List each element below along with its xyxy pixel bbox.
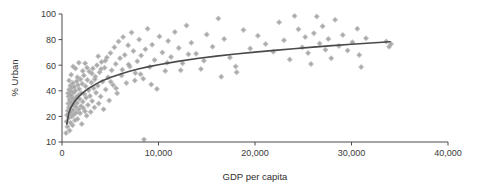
scatter-point — [325, 36, 331, 42]
x-tick-label: 0 — [59, 148, 64, 158]
y-tick-label: 40 — [46, 86, 56, 96]
scatter-point — [168, 54, 174, 60]
scatter-point — [363, 35, 369, 41]
scatter-point — [276, 19, 282, 25]
scatter-point — [94, 62, 100, 68]
y-tick-label: 20 — [46, 112, 56, 122]
scatter-point — [233, 63, 239, 69]
scatter-point — [80, 68, 86, 74]
scatter-point — [91, 104, 97, 110]
scatter-point — [85, 102, 91, 108]
scatter-point — [106, 97, 112, 103]
scatter-point — [88, 109, 94, 115]
scatter-point — [281, 37, 287, 43]
scatter-point — [176, 45, 182, 51]
scatter-point — [95, 53, 101, 59]
scatter-point — [130, 48, 136, 54]
scatter-point — [148, 81, 154, 87]
scatter-point — [89, 98, 95, 104]
scatter-point — [185, 51, 191, 57]
scatter-point — [79, 121, 85, 127]
scatter-point — [328, 55, 334, 61]
scatter-point — [234, 69, 240, 75]
scatter-point — [305, 50, 311, 56]
scatter-point — [119, 67, 125, 73]
x-axis: 010,00020,00030,00040,000 — [59, 142, 461, 158]
y-axis-title: % Urban — [9, 60, 20, 97]
scatter-point — [120, 34, 126, 40]
scatter-point — [159, 49, 165, 55]
scatter-point — [149, 42, 155, 48]
x-tick-label: 30,000 — [338, 148, 366, 158]
scatter-point — [142, 46, 148, 52]
scatter-point — [198, 66, 204, 72]
scatter-point — [123, 80, 129, 86]
scatter-point — [138, 53, 144, 59]
scatter-point — [98, 94, 104, 100]
scatter-point — [240, 27, 246, 33]
scatter-point — [311, 30, 317, 36]
scatter-point — [322, 47, 328, 53]
scatter-point — [210, 44, 216, 50]
scatter-point — [354, 26, 360, 32]
scatter-point — [178, 67, 184, 73]
scatter-point — [107, 50, 113, 56]
scatter-point — [134, 58, 140, 64]
scatter-point — [295, 26, 301, 32]
scatter-point — [247, 46, 253, 52]
y-tick-label: 100 — [41, 9, 56, 19]
scatter-point — [132, 78, 138, 84]
y-tick-label: 10 — [46, 137, 56, 147]
x-tick-label: 10,000 — [145, 148, 173, 158]
scatter-point — [129, 30, 135, 36]
y-axis: 1020406080100 — [41, 9, 62, 147]
scatter-point — [302, 34, 308, 40]
scatter-point — [76, 60, 82, 66]
scatter-point — [145, 26, 151, 32]
scatter-chart: 1020406080100 010,00020,00030,00040,000 … — [0, 0, 478, 190]
scatter-point — [317, 40, 323, 46]
scatter-point — [162, 68, 168, 74]
trendline — [67, 42, 390, 124]
y-tick-label: 60 — [46, 61, 56, 71]
scatter-point — [152, 57, 158, 63]
scatter-point — [116, 39, 122, 45]
scatter-point — [172, 29, 178, 35]
scatter-point — [136, 37, 142, 43]
scatter-point — [308, 61, 314, 67]
scatter-point — [320, 23, 326, 29]
scatter-point — [292, 13, 298, 19]
y-tick-label: 80 — [46, 35, 56, 45]
scatter-point — [122, 52, 128, 58]
scatter-point — [156, 33, 162, 39]
scatter-point — [111, 44, 117, 50]
scatter-point — [68, 72, 74, 78]
scatter-point — [356, 52, 362, 58]
scatter-point — [263, 41, 269, 47]
x-axis-title: GDP per capita — [223, 171, 288, 182]
scatter-point — [125, 42, 131, 48]
scatter-point — [218, 74, 224, 80]
scatter-point — [345, 47, 351, 53]
scatter-point — [114, 90, 120, 96]
scatter-point — [255, 33, 261, 39]
scatter-point — [332, 17, 338, 23]
scatter-point — [81, 72, 87, 78]
scatter-point — [103, 87, 109, 93]
scatter-point — [340, 32, 346, 38]
scatter-point — [101, 106, 107, 112]
scatter-point — [117, 55, 123, 61]
scatter-point — [109, 67, 115, 73]
scatter-point — [113, 61, 119, 67]
chart-canvas: 1020406080100 010,00020,00030,00040,000 … — [0, 0, 478, 190]
scatter-point — [193, 51, 199, 57]
scatter-point — [221, 36, 227, 42]
scatter-point — [188, 40, 194, 46]
scatter-point — [96, 101, 102, 107]
scatter-point — [183, 23, 189, 29]
scatter-point — [314, 14, 320, 20]
plot-area — [63, 13, 394, 143]
x-tick-label: 20,000 — [241, 148, 269, 158]
scatter-point — [165, 38, 171, 44]
scatter-point — [154, 86, 160, 92]
